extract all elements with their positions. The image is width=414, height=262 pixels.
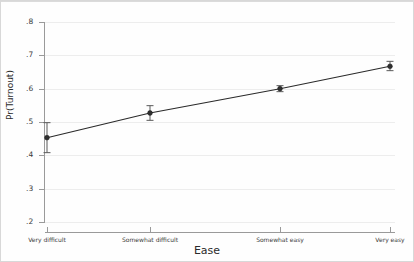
data-point bbox=[148, 111, 153, 116]
data-point bbox=[388, 64, 393, 69]
data-series bbox=[0, 0, 414, 262]
data-point bbox=[278, 86, 283, 91]
data-point bbox=[45, 135, 50, 140]
connecting-line bbox=[47, 66, 390, 137]
chart-page: .2.3.4.5.6.7.8 Very difficultSomewhat di… bbox=[0, 0, 414, 262]
